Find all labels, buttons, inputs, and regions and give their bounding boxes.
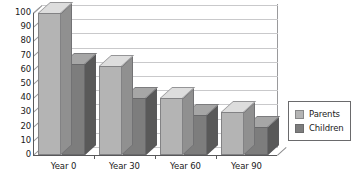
y-tick: 0	[0, 150, 31, 160]
legend-item-children: Children	[295, 121, 344, 135]
bar-front-face	[160, 98, 183, 155]
y-tick-label: 60	[7, 65, 31, 74]
y-tick-label: 10	[7, 136, 31, 145]
plot-depth-edge-bottom-right	[277, 147, 287, 156]
bar-side-face	[85, 54, 96, 155]
y-tick-label: 20	[7, 122, 31, 131]
x-tick-label: Year 30	[94, 162, 155, 171]
gridline	[42, 19, 278, 20]
bar-parents-year-90	[221, 112, 244, 155]
legend-swatch	[295, 110, 304, 119]
bar-front-face	[221, 112, 244, 155]
y-tick: 20	[0, 122, 31, 132]
y-tick-label: 0	[7, 150, 31, 159]
legend-label: Parents	[309, 110, 340, 119]
legend-swatch	[295, 124, 304, 133]
bar-side-face	[183, 88, 194, 155]
y-tick-label: 70	[7, 51, 31, 60]
x-tick-mark	[94, 155, 95, 159]
y-tick-label: 80	[7, 36, 31, 45]
y-tick: 40	[0, 93, 31, 103]
y-tick: 60	[0, 65, 31, 75]
x-tick-mark	[155, 155, 156, 159]
bar-front-face	[38, 13, 61, 155]
y-tick: 30	[0, 107, 31, 117]
gridline	[42, 33, 278, 34]
gridline	[42, 48, 278, 49]
y-tick-label: 40	[7, 93, 31, 102]
bar-side-face	[61, 3, 72, 155]
y-tick: 10	[0, 136, 31, 146]
bar-parents-year-0	[38, 13, 61, 155]
y-tick: 80	[0, 36, 31, 46]
y-tick-label: 50	[7, 79, 31, 88]
legend-item-parents: Parents	[295, 107, 344, 121]
x-tick-label: Year 60	[155, 162, 216, 171]
legend: ParentsChildren	[288, 101, 351, 141]
y-tick: 50	[0, 79, 31, 89]
bar-parents-year-30	[99, 66, 122, 155]
y-tick: 90	[0, 22, 31, 32]
y-tick: 70	[0, 51, 31, 61]
legend-label: Children	[309, 124, 344, 133]
bar-side-face	[122, 56, 133, 155]
y-axis-line	[33, 13, 34, 155]
y-tick-label: 90	[7, 22, 31, 31]
y-tick: 100	[0, 8, 31, 18]
y-tick-label: 30	[7, 107, 31, 116]
y-tick-label: 100	[7, 8, 31, 17]
gridline	[42, 5, 278, 6]
bar-side-face	[146, 88, 157, 155]
x-tick-label: Year 0	[33, 162, 94, 171]
bar-parents-year-60	[160, 98, 183, 155]
x-tick-mark	[216, 155, 217, 159]
bar-chart: 0102030405060708090100 Year 0Year 30Year…	[0, 0, 352, 188]
x-tick-label: Year 90	[216, 162, 277, 171]
bar-front-face	[99, 66, 122, 155]
